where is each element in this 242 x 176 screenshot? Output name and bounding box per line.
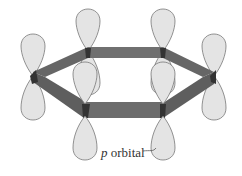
orbital-lobe-lower-right-bottom: [151, 116, 175, 160]
hexagon-ring: [30, 47, 216, 118]
bond-bottom: [84, 102, 163, 118]
orbital-lobe-upper-right-top: [151, 9, 175, 51]
orbital-lobe-upper-left-top: [76, 9, 100, 51]
p-orbital-label: p orbital: [101, 145, 145, 161]
orbital-lobe-lower-left-bottom: [73, 116, 97, 160]
bond-top: [88, 47, 163, 58]
label-text: orbital: [108, 145, 145, 160]
